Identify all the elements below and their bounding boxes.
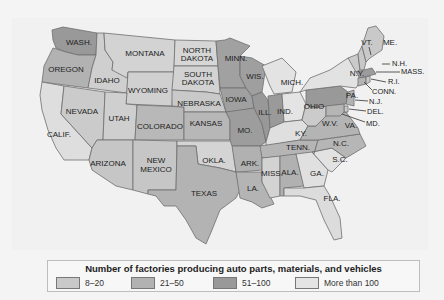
legend-label-8-20: 8–20 bbox=[85, 278, 104, 288]
state-connecticut[interactable] bbox=[358, 77, 366, 86]
label-conn: CONN. bbox=[372, 87, 396, 96]
label-colorado: COLORADO bbox=[137, 122, 183, 131]
label-okla: OKLA. bbox=[202, 156, 226, 165]
legend-title: Number of factories producing auto parts… bbox=[48, 263, 419, 274]
legend-label-51-100: 51–100 bbox=[242, 278, 270, 288]
label-pa: PA. bbox=[346, 91, 358, 100]
legend-label-more-than-100: More than 100 bbox=[324, 278, 379, 288]
label-la: LA. bbox=[247, 184, 259, 193]
map-legend: Number of factories producing auto parts… bbox=[47, 260, 420, 292]
label-iowa: IOWA bbox=[225, 95, 247, 104]
label-mich: MICH. bbox=[281, 78, 304, 87]
label-montana: MONTANA bbox=[125, 49, 165, 58]
label-del: DEL. bbox=[367, 107, 384, 116]
label-new-mexico-2: MEXICO bbox=[140, 165, 172, 174]
label-wis: WIS. bbox=[246, 72, 263, 81]
label-ri: R.I. bbox=[388, 77, 400, 86]
legend-item-more-than-100: More than 100 bbox=[295, 277, 379, 289]
legend-swatch-more-than-100 bbox=[295, 277, 319, 289]
label-ala: ALA. bbox=[281, 168, 298, 177]
legend-swatch-51-100 bbox=[213, 277, 237, 289]
label-ny: N.Y. bbox=[350, 69, 365, 78]
label-kansas: KANSAS bbox=[190, 119, 222, 128]
label-minn: MINN. bbox=[225, 54, 248, 63]
label-tenn: TENN. bbox=[286, 143, 310, 152]
label-sc: S.C. bbox=[332, 155, 348, 164]
label-north-dakota-2: DAKOTA bbox=[181, 54, 214, 63]
state-delaware[interactable] bbox=[344, 106, 348, 112]
label-wash: WASH. bbox=[66, 38, 92, 47]
label-nj: N.J. bbox=[369, 97, 382, 106]
label-mo: MO. bbox=[237, 126, 252, 135]
legend-label-21-50: 21–50 bbox=[160, 278, 184, 288]
label-arizona: ARIZONA bbox=[90, 159, 126, 168]
label-wv: W.V. bbox=[322, 119, 338, 128]
label-oregon: OREGON bbox=[48, 65, 84, 74]
label-me: ME. bbox=[383, 38, 397, 47]
legend-swatch-8-20 bbox=[56, 277, 80, 289]
label-nevada: NEVADA bbox=[66, 107, 99, 116]
label-calif: CALIF. bbox=[47, 130, 71, 139]
label-ohio: OHIO bbox=[304, 102, 324, 111]
label-vt: VT. bbox=[361, 38, 373, 47]
label-ill: ILL. bbox=[258, 108, 271, 117]
label-idaho: IDAHO bbox=[94, 76, 119, 85]
legend-swatch-21-50 bbox=[131, 277, 155, 289]
label-new-mexico-1: NEW bbox=[147, 156, 166, 165]
label-utah: UTAH bbox=[108, 114, 129, 123]
legend-item-51-100: 51–100 bbox=[213, 277, 270, 289]
legend-item-8-20: 8–20 bbox=[56, 277, 104, 289]
label-va: VA. bbox=[345, 121, 357, 130]
label-miss: MISS. bbox=[261, 169, 283, 178]
label-ark: ARK. bbox=[241, 159, 260, 168]
legend-item-21-50: 21–50 bbox=[131, 277, 184, 289]
label-nebraska: NEBRASKA bbox=[177, 99, 221, 108]
label-mass: MASS. bbox=[401, 67, 424, 76]
state-maryland[interactable] bbox=[326, 104, 344, 116]
label-ind: IND. bbox=[277, 107, 293, 116]
label-nc: N.C. bbox=[333, 139, 349, 148]
label-ky: KY. bbox=[295, 129, 307, 138]
label-wyoming: WYOMING bbox=[128, 86, 168, 95]
label-texas: TEXAS bbox=[191, 189, 217, 198]
label-md: MD. bbox=[366, 119, 380, 128]
us-map: WASH. OREGON CALIF. IDAHO NEVADA MONTANA… bbox=[0, 0, 444, 300]
label-south-dakota-2: DAKOTA bbox=[182, 78, 215, 87]
label-fla: FLA. bbox=[324, 194, 341, 203]
label-ga: GA. bbox=[310, 169, 324, 178]
